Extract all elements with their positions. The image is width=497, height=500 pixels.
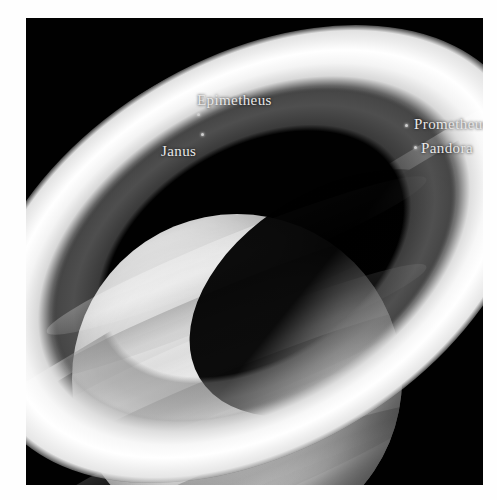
moon-label-pandora: Pandora <box>421 140 473 157</box>
moon-label-prometheus: Prometheus <box>414 116 483 133</box>
moon-label-epimetheus: Epimetheus <box>197 92 272 109</box>
page-root: Epimetheus Janus Prometheus Pandora <box>0 0 497 500</box>
moon-dot-epimetheus <box>197 113 200 116</box>
moon-dot-pandora <box>414 146 417 149</box>
moon-label-janus: Janus <box>161 143 196 160</box>
saturn-photograph: Epimetheus Janus Prometheus Pandora <box>26 18 483 485</box>
moon-dot-janus <box>201 133 204 136</box>
moon-dot-prometheus <box>405 124 408 127</box>
